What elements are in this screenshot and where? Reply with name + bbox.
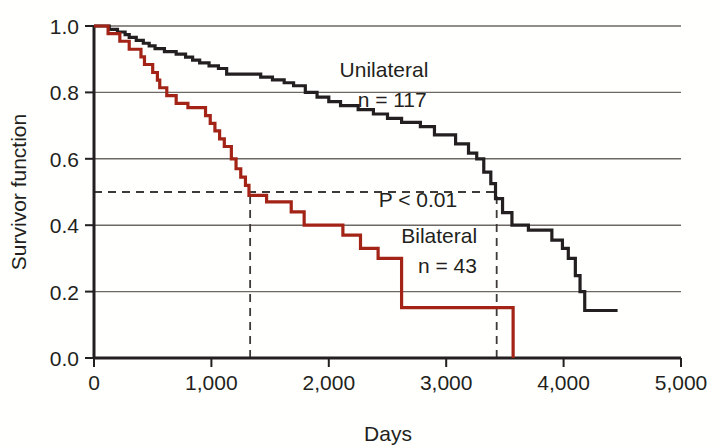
y-tick-label-1: 1.0 — [50, 15, 79, 38]
annotation-unilateral-n: n = 117 — [358, 88, 427, 111]
x-tick-label-5000: 5,000 — [655, 371, 708, 394]
chart-canvas: 01,0002,0003,0004,0005,000 0.00.20.40.60… — [0, 0, 721, 448]
x-axis-title: Days — [364, 422, 412, 445]
y-tick-label-0.6: 0.6 — [50, 148, 79, 171]
y-tick-label-0.8: 0.8 — [50, 81, 79, 104]
y-axis-title: Survivor function — [7, 114, 30, 270]
annotation-p-value: P < 0.01 — [379, 188, 457, 211]
x-tick-label-2000: 2,000 — [303, 371, 356, 394]
y-tick-label-0: 0.0 — [50, 347, 79, 370]
x-tick-label-3000: 3,000 — [420, 371, 473, 394]
x-tick-label-0: 0 — [88, 371, 100, 394]
survival-chart-figure: 01,0002,0003,0004,0005,000 0.00.20.40.60… — [0, 0, 721, 448]
annotation-bilateral-label: Bilateral — [401, 224, 477, 247]
y-tick-label-0.2: 0.2 — [50, 281, 79, 304]
x-tick-label-4000: 4,000 — [537, 371, 590, 394]
x-tick-label-1000: 1,000 — [185, 371, 238, 394]
annotation-bilateral-n: n = 43 — [418, 254, 477, 277]
y-tick-label-0.4: 0.4 — [50, 214, 80, 237]
annotation-unilateral-label: Unilateral — [340, 58, 429, 81]
